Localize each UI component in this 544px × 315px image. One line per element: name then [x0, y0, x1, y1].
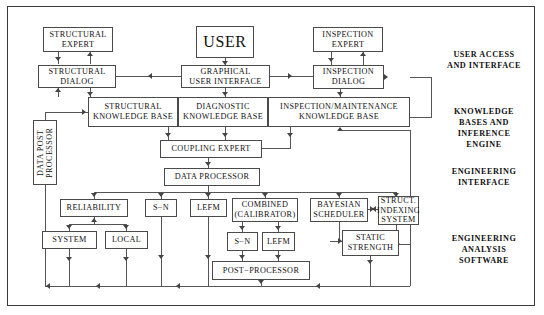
box-data-post-processor[interactable]: DATA POST PROCESSOR: [33, 120, 57, 185]
box-inspection-expert-label: INSPECTION EXPERT: [322, 30, 373, 49]
arrow-bus-to-combined: [262, 193, 268, 197]
arrow-reliability-up: [91, 218, 97, 222]
box-structural-knowledge-base-label: STRUCTURAL KNOWLEDGE BASE: [93, 102, 173, 121]
box-reliability[interactable]: RELIABILITY: [60, 199, 128, 217]
box-post-processor-label: POST−PROCESSOR: [223, 266, 299, 276]
box-sn-upper[interactable]: S−N: [145, 199, 177, 217]
box-diagnostic-knowledge-base-label: DIAGNOSTIC KNOWLEDGE BASE: [183, 102, 263, 121]
arrow-post-processor-down: [258, 280, 264, 284]
box-lefm-upper-label: LEFM: [197, 203, 220, 213]
arrow-reliability-to-local: [123, 225, 129, 229]
arrow-reliability-to-system: [66, 225, 72, 229]
box-sn-upper-label: S−N: [153, 203, 169, 213]
arrow-local-down: [123, 257, 129, 261]
box-inspection-expert[interactable]: INSPECTION EXPERT: [313, 27, 383, 52]
group-label-engineering-analysis-software: ENGINEERING ANALYSIS SOFTWARE: [432, 222, 536, 266]
arrow-inspection-dialog-to-kb: [337, 92, 343, 96]
box-post-processor[interactable]: POST−PROCESSOR: [212, 261, 310, 280]
arrow-structural-dialog-down-a: [55, 88, 61, 92]
box-structural-knowledge-base[interactable]: STRUCTURAL KNOWLEDGE BASE: [88, 97, 178, 127]
box-combined-calibrator-label: COMBINED (CALIBRATOR): [235, 200, 296, 219]
box-coupling-expert-label: COUPLING EXPERT: [171, 144, 250, 154]
box-inspection-maintenance-knowledge-base[interactable]: INSPECTION/MAINTENANCE KNOWLEDGE BASE: [268, 97, 410, 127]
arrow-kb-feedback-to-dialog: [384, 74, 388, 80]
arrow-dpp-to-structural-kb: [82, 109, 86, 115]
box-inspection-dialog[interactable]: INSPECTION DIALOG: [313, 65, 384, 89]
arrow-bus-to-sn-upper: [158, 193, 164, 197]
arrow-return-left-1: [46, 283, 50, 289]
group-label-user-access-and-interface: USER ACCESS AND INTERFACE: [432, 38, 536, 71]
arrow-bus-to-bayesian: [336, 193, 342, 197]
arrow-coupling-to-data-processor: [205, 162, 211, 166]
arrow-sn-lower-to-post: [239, 255, 245, 259]
link-kb-feedback-top: [410, 77, 432, 78]
box-structural-dialog-label: STRUCTURAL DIALOG: [48, 67, 105, 86]
arrow-inspection-expert-down: [328, 58, 334, 62]
arrow-gui-to-inspection-dialog: [288, 73, 292, 79]
box-diagnostic-knowledge-base[interactable]: DIAGNOSTIC KNOWLEDGE BASE: [178, 97, 268, 127]
return-lefm-upper: [208, 217, 209, 286]
link-dpp-top-stub: [45, 112, 46, 120]
arrow-sn-upper-down: [158, 255, 164, 259]
link-kb-feedback-bottom: [410, 117, 432, 118]
box-inspection-dialog-label: INSPECTION DIALOG: [323, 67, 374, 86]
box-structural-dialog[interactable]: STRUCTURAL DIALOG: [38, 65, 116, 88]
box-data-processor[interactable]: DATA PROCESSOR: [164, 168, 260, 186]
diagram-canvas: STRUCTURAL EXPERT USER INSPECTION EXPERT…: [0, 0, 544, 315]
link-coupling-right-hook-v: [290, 140, 291, 149]
arrow-bus-to-lefm-upper: [205, 193, 211, 197]
group-label-engineering-interface-text: ENGINEERING INTERFACE: [452, 167, 517, 187]
box-structural-expert-label: STRUCTURAL EXPERT: [49, 30, 106, 49]
arrow-structural-kb-to-coupling: [165, 133, 171, 137]
box-sn-lower[interactable]: S−N: [227, 232, 258, 251]
arrow-gui-to-diagnostic-kb: [222, 92, 228, 96]
box-lefm-lower-label: LEFM: [267, 237, 290, 247]
box-static-strength-label: STATIC STRENGTH: [348, 233, 394, 252]
arrow-diagnostic-kb-to-coupling: [222, 133, 228, 137]
link-coupling-right-hook: [262, 148, 291, 149]
return-right-vertical: [410, 130, 411, 244]
arrow-indexing-to-bayesian: [372, 206, 376, 212]
group-label-engineering-analysis-text: ENGINEERING ANALYSIS SOFTWARE: [452, 234, 517, 265]
arrow-static-strength-down: [367, 260, 373, 264]
return-local: [126, 249, 127, 286]
arrow-structural-expert-down: [55, 57, 61, 61]
box-combined-calibrator[interactable]: COMBINED (CALIBRATOR): [232, 198, 298, 222]
box-lefm-lower[interactable]: LEFM: [262, 232, 295, 251]
box-system[interactable]: SYSTEM: [42, 231, 97, 249]
box-local[interactable]: LOCAL: [105, 231, 148, 249]
bus-distribution: [94, 192, 396, 193]
box-lefm-upper[interactable]: LEFM: [190, 199, 227, 217]
arrow-structural-dialog-down-b: [87, 92, 93, 96]
box-bayesian-scheduler-label: BAYESIAN SCHEDULER: [313, 200, 364, 219]
box-user[interactable]: USER: [196, 26, 254, 58]
arrow-return-left-3: [176, 283, 180, 289]
group-label-knowledge-bases-text: KNOWLEDGE BASES AND INFERENCE ENGINE: [454, 107, 514, 149]
link-reliability-split: [69, 224, 126, 225]
arrow-combined-to-lefm-lower: [275, 226, 281, 230]
arrow-inspection-kb-down: [287, 133, 293, 137]
arrow-system-down: [66, 257, 72, 261]
arrow-combined-to-sn-lower: [239, 226, 245, 230]
arrow-inspection-dialog-up: [360, 52, 366, 56]
group-label-engineering-interface: ENGINEERING INTERFACE: [432, 155, 536, 188]
arrow-return-left-4: [316, 283, 320, 289]
box-data-post-processor-label: DATA POST PROCESSOR: [36, 127, 55, 177]
arrow-structural-dialog-up: [87, 52, 93, 56]
box-user-label: USER: [203, 33, 246, 52]
box-struct-indexing-system[interactable]: STRUCT. INDEXING SYSTEM: [378, 196, 419, 225]
arrow-lefm-lower-to-post: [275, 255, 281, 259]
box-bayesian-scheduler[interactable]: BAYESIAN SCHEDULER: [310, 198, 368, 222]
arrow-lefm-upper-down: [205, 255, 211, 259]
box-graphical-user-interface-label: GRAPHICAL USER INTERFACE: [189, 67, 261, 86]
return-static-strength: [370, 266, 371, 286]
box-coupling-expert[interactable]: COUPLING EXPERT: [160, 140, 262, 158]
box-structural-expert[interactable]: STRUCTURAL EXPERT: [43, 27, 113, 52]
box-graphical-user-interface[interactable]: GRAPHICAL USER INTERFACE: [181, 65, 270, 88]
return-system: [69, 249, 70, 286]
group-label-knowledge-bases-and-inference-engine: KNOWLEDGE BASES AND INFERENCE ENGINE: [432, 95, 536, 150]
box-data-processor-label: DATA PROCESSOR: [175, 172, 250, 182]
box-reliability-label: RELIABILITY: [67, 203, 122, 213]
box-static-strength[interactable]: STATIC STRENGTH: [342, 230, 399, 256]
box-inspection-maintenance-knowledge-base-label: INSPECTION/MAINTENANCE KNOWLEDGE BASE: [280, 102, 398, 121]
